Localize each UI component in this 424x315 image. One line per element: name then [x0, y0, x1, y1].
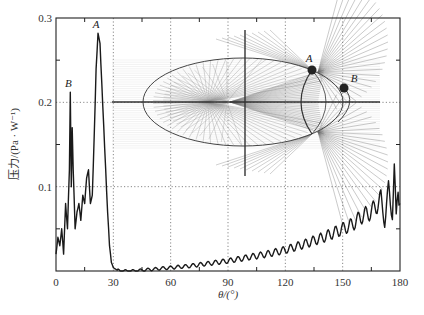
y-tick-label: 0.2	[38, 96, 52, 108]
x-tick-label: 30	[108, 276, 120, 288]
pressure-angle-chart: AB 0306090120150180 0.10.20.3 AB θ/(°) 压…	[0, 0, 424, 315]
peak-label-b: B	[65, 77, 72, 89]
x-tick-label: 150	[334, 276, 351, 288]
peak-annotations: AB	[65, 18, 100, 89]
x-tick-label: 120	[277, 276, 294, 288]
y-tick-label: 0.3	[38, 12, 52, 24]
y-axis-title: 压力/(Pa · W⁻¹)	[8, 108, 21, 180]
inset-label-a: A	[305, 52, 313, 64]
inset-point-b	[340, 84, 349, 93]
x-tick-label: 0	[53, 276, 59, 288]
x-axis-title: θ/(°)	[218, 288, 239, 301]
y-tick-labels: 0.10.20.3	[38, 12, 52, 193]
inset-label-b: B	[351, 72, 358, 84]
x-tick-label: 90	[223, 276, 235, 288]
peak-label-a: A	[92, 18, 100, 30]
x-tick-label: 60	[165, 276, 177, 288]
ray-tracing-inset: AB	[112, 0, 388, 227]
y-tick-label: 0.1	[38, 181, 52, 193]
x-tick-labels: 0306090120150180	[53, 276, 409, 288]
x-tick-label: 180	[392, 276, 409, 288]
inset-point-a	[308, 66, 317, 75]
